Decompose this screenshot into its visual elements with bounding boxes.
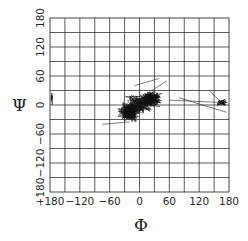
- x-tick-label: 60: [163, 195, 176, 207]
- x-tick-label: −120: [65, 195, 94, 207]
- y-tick-label: −60: [34, 123, 46, 145]
- ramachandran-plot: −180−120−60060120180 −180−120−6006012018…: [0, 0, 248, 241]
- y-tick-label: 180: [34, 8, 46, 28]
- x-tick-label: −180: [36, 195, 65, 207]
- x-tick-label: 120: [189, 195, 209, 207]
- x-tick-label: 0: [136, 195, 143, 207]
- x-axis-label: Φ: [134, 215, 148, 235]
- y-axis-ticks: −180−120−60060120180: [34, 8, 46, 206]
- x-tick-label: −60: [99, 195, 121, 207]
- y-tick-label: 60: [34, 69, 46, 82]
- y-axis-label: Ψ: [12, 95, 27, 115]
- x-tick-label: 180: [219, 195, 239, 207]
- trajectory-path: [51, 93, 52, 105]
- y-tick-label: −120: [34, 149, 46, 178]
- y-tick-label: 120: [34, 37, 46, 57]
- trajectory-path: [209, 91, 224, 106]
- trajectory-path: [135, 78, 160, 85]
- trajectory-path: [102, 122, 129, 124]
- corner-mark: ': [37, 194, 39, 203]
- trajectory-path: [169, 100, 224, 102]
- y-tick-label: 0: [34, 102, 46, 109]
- x-axis-ticks: −180−120−60060120180: [36, 195, 239, 207]
